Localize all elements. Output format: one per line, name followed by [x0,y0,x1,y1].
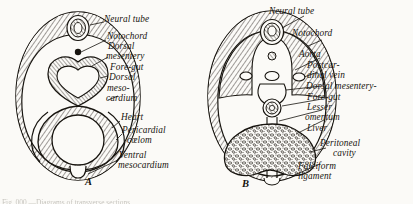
label-a-pericardial: Pericardial [122,125,166,135]
fore-gut [263,99,281,117]
label-a-dorsal: Dorsal [108,41,134,51]
panel-a-drawing [0,0,207,204]
label-b-neural-tube: Neural tube [269,6,314,16]
panel-a-letter: A [85,176,92,187]
label-a-neural-tube: Neural tube [104,14,149,24]
notochord [75,49,81,55]
neural-tube [261,20,284,45]
aorta [265,72,279,81]
label-b-lesser: Lesser [307,102,332,112]
postcardinal-vein-right [293,73,305,81]
label-b-notochord: Notochord [292,28,332,38]
notochord [268,52,276,60]
label-a-dorsal-2: Dorsal [109,72,135,82]
label-a-heart: Heart [121,112,143,122]
label-b-fore-gut: Fore-gut [307,92,341,102]
heart-lumen [52,115,104,165]
label-a-ventral: Ventral [119,150,147,160]
label-a-coelom: cœlom [127,135,152,145]
postcardinal-vein-left [240,72,252,80]
ventral-mesocardium [70,166,86,178]
label-b-dorsal-mesentery: Dorsal mesentery- [306,81,377,91]
label-a-mesentery: mesentery [106,51,145,61]
label-b-peritoneal: Peritoneal [320,138,360,148]
label-a-meso: meso- [107,83,130,93]
neural-tube [67,16,89,41]
label-b-ligament: ligament [298,171,331,181]
label-b-postcardinal: Postcar- [307,60,340,70]
label-b-falciform: Falciform [298,161,336,171]
label-a-cardium: cardium [106,93,137,103]
label-b-omentum: omentum [305,112,340,122]
figure-page: Neural tube Notochord Dorsal mesentery F… [0,0,413,204]
label-b-dinal-vein: dinal vein [307,70,345,80]
label-a-ventral-mesocardium: mesocardium [118,160,169,170]
figure-caption: Fig. 000.—Diagrams of transverse section… [2,198,130,204]
panel-b-letter: B [242,178,249,189]
label-b-liver: Liver [307,123,327,133]
label-b-aorta: Aorta [299,49,321,59]
label-a-fore-gut: Fore-gut [110,62,144,72]
label-b-cavity: cavity [333,148,356,158]
label-a-notochord: Notochord [107,31,147,41]
